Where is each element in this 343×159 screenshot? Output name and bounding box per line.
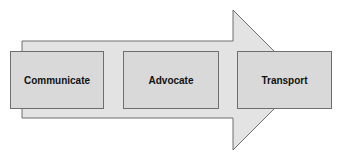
- step-label: Communicate: [24, 75, 90, 86]
- step-label: Advocate: [148, 75, 193, 86]
- step-transport: Transport: [237, 51, 332, 109]
- step-label: Transport: [261, 75, 307, 86]
- step-advocate: Advocate: [123, 51, 219, 109]
- process-diagram: Communicate Advocate Transport: [0, 0, 343, 159]
- step-communicate: Communicate: [10, 51, 104, 109]
